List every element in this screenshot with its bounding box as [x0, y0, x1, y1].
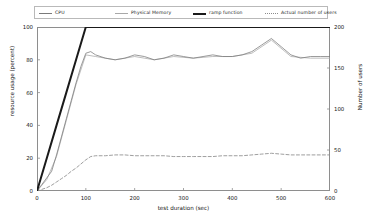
y-right-tick-150: 150 [334, 65, 356, 71]
plot-series-layer [37, 27, 330, 191]
legend-entry-cpu: CPU [35, 7, 113, 18]
legend-label-cpu: CPU [55, 10, 65, 15]
y-axis-right-tick-marks [327, 27, 330, 191]
legend-line-sample-cpu-icon [39, 9, 52, 16]
x-axis-tick-marks [37, 188, 330, 191]
legend-label-physical-memory: Physical Memory [131, 10, 171, 15]
y-axis-right-title: Number of users [357, 27, 363, 147]
series-line-actual-number-of-users [37, 153, 330, 191]
legend-label-ramp-function: ramp function [209, 10, 243, 15]
y-right-tick-0: 0 [334, 188, 356, 194]
x-tick-200: 200 [123, 195, 147, 201]
y-right-tick-200: 200 [334, 24, 356, 30]
series-line-ramp-function [37, 27, 330, 191]
x-axis-title: test duration (sec) [37, 205, 330, 211]
tick-marks-layer [37, 27, 330, 191]
x-tick-100: 100 [74, 195, 98, 201]
x-tick-400: 400 [220, 195, 244, 201]
legend-line-sample-physical-memory-icon [115, 9, 128, 16]
legend-line-sample-ramp-function-icon [193, 9, 206, 16]
legend-entry-actual-number-of-users: Actual number of users [263, 7, 327, 18]
x-tick-0: 0 [25, 195, 49, 201]
legend-label-actual-number-of-users: Actual number of users [281, 10, 337, 15]
y-axis-left-title: resource usage (percent) [9, 21, 15, 141]
x-tick-500: 500 [269, 195, 293, 201]
series-line-cpu [37, 38, 330, 191]
y-left-tick-0: 0 [11, 188, 33, 194]
resource-usage-chart-figure: CPU Physical Memory ramp function Actual… [0, 0, 384, 224]
y-axis-left-tick-marks [37, 27, 40, 191]
y-right-tick-50: 50 [334, 147, 356, 153]
legend-entry-physical-memory: Physical Memory [113, 7, 191, 18]
data-series-layer [37, 27, 330, 191]
series-line-physical-memory [37, 40, 330, 191]
x-tick-600: 600 [318, 195, 342, 201]
legend-entry-ramp-function: ramp function [191, 7, 263, 18]
chart-legend: CPU Physical Memory ramp function Actual… [34, 6, 328, 19]
y-right-tick-100: 100 [334, 106, 356, 112]
y-left-tick-20: 20 [11, 155, 33, 161]
x-tick-300: 300 [172, 195, 196, 201]
legend-line-sample-actual-users-icon [265, 9, 278, 16]
